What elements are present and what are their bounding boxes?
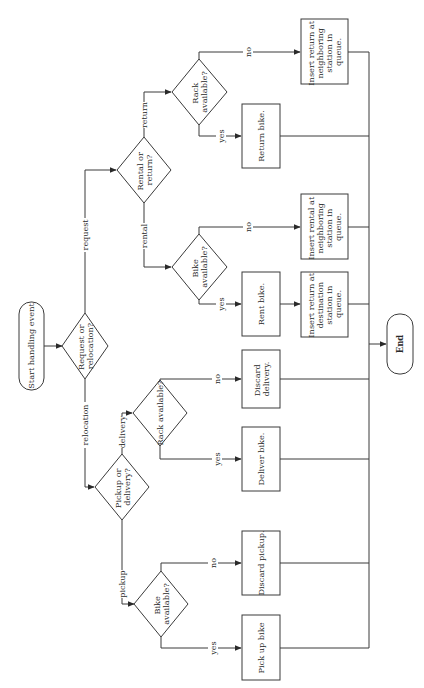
process-rent-bike: Rent bike. — [242, 272, 280, 336]
process-label-line: queue. — [333, 38, 343, 66]
edge-label-no: no — [244, 47, 253, 57]
end-label: End — [395, 335, 405, 354]
process-pick-up-bike: Pick up bike — [242, 615, 280, 680]
decision-pickup-or-delivery: Pickup or delivery? — [95, 454, 149, 520]
start-terminal: Start handling event — [19, 302, 44, 390]
svg-text:Discard delivery.: Discard delivery. — [252, 362, 271, 397]
start-label: Start handling event — [26, 303, 36, 389]
arrow-rack-delivery-yes — [160, 446, 241, 459]
decision-rack-available-return: Rack available? — [172, 59, 227, 125]
edge-label-no: no — [244, 222, 253, 232]
process-label: Return bike. — [256, 110, 266, 162]
edge-label-yes: yes — [213, 452, 222, 466]
edge-label-yes: yes — [209, 641, 218, 655]
edge-label-no: no — [209, 558, 218, 568]
svg-text:Pickup or delivery?: Pickup or delivery? — [113, 466, 132, 508]
end-terminal: End — [387, 314, 413, 374]
decision-label-line: relocation? — [85, 323, 95, 369]
process-discard-delivery: Discard delivery. — [242, 350, 280, 408]
process-label-line: queue. — [333, 290, 343, 318]
process-label-line: delivery. — [261, 362, 271, 397]
edge-labels: request relocation return rental deliver… — [80, 46, 253, 656]
decision-bike-available-pickup: Bike available? — [134, 571, 188, 637]
decision-label-line: return? — [144, 155, 154, 186]
decision-label-line: delivery? — [122, 468, 132, 506]
arrow-bike-pickup-yes — [161, 637, 241, 648]
svg-text:Request or relocation?: Request or relocation? — [76, 322, 95, 370]
edge-label-pickup: pickup — [118, 570, 127, 597]
edge-label-request: request — [81, 219, 90, 251]
edge-label-rental: rental — [140, 223, 149, 248]
decision-label-line: available? — [199, 71, 209, 113]
decision-rental-or-return: Rental or return? — [117, 137, 171, 203]
process-deliver-bike: Deliver bike. — [242, 427, 280, 491]
flowchart-canvas: request relocation return rental deliver… — [0, 0, 424, 688]
arrow-bike-pickup-no — [161, 563, 241, 571]
process-insert-rental-neighboring: Insert rental at neighboring station in … — [301, 194, 348, 260]
edge-label-relocation: relocation — [81, 405, 90, 446]
arrow-rack-delivery-no — [160, 379, 241, 380]
decision-request-or-relocation: Request or relocation? — [62, 313, 108, 379]
svg-text:Rental or return?: Rental or return? — [135, 149, 154, 190]
process-return-bike: Return bike. — [242, 104, 280, 168]
decision-label: Rack available? — [155, 381, 165, 446]
decision-label-line: available? — [161, 583, 171, 625]
process-label-line: queue. — [333, 213, 343, 241]
decision-label-line: available? — [199, 246, 209, 288]
edge-label-return: return — [140, 102, 149, 128]
process-discard-pickup: Discard pickup. — [242, 530, 280, 595]
process-label: Discard pickup. — [256, 530, 266, 595]
edge-label-yes: yes — [217, 297, 226, 311]
edge-label-delivery: delivery — [118, 415, 127, 448]
process-label: Deliver bike. — [256, 433, 266, 486]
decision-rack-available-delivery: Rack available? — [133, 380, 187, 446]
edge-label-yes: yes — [217, 129, 226, 143]
decision-bike-available-rental: Bike available? — [172, 234, 227, 300]
process-insert-return-destination: Insert return at destination station in … — [301, 270, 348, 337]
process-insert-return-neighboring: Insert return at neighboring station in … — [301, 18, 348, 85]
process-label: Pick up bike — [256, 622, 266, 673]
process-label: Rent bike. — [256, 283, 266, 325]
edge-label-no: no — [213, 374, 222, 384]
